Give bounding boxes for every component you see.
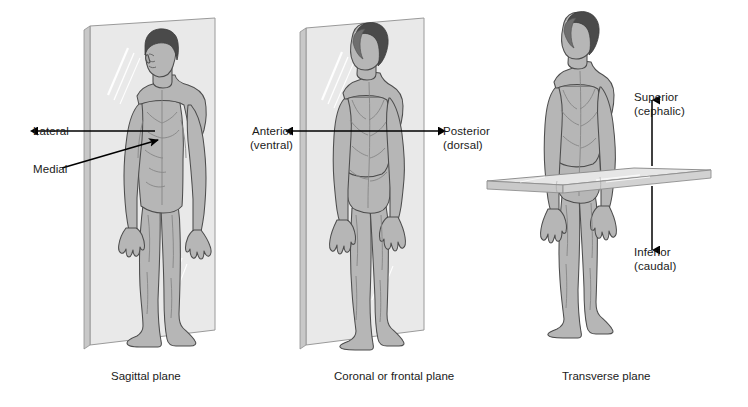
label-superior-line1: Superior	[634, 91, 685, 105]
label-posterior-line2: (dorsal)	[443, 139, 490, 153]
sagittal-panel	[38, 18, 215, 349]
label-anterior-line1: Anterior	[243, 125, 293, 139]
label-anterior: Anterior (ventral)	[243, 125, 293, 152]
label-posterior-line1: Posterior	[443, 125, 490, 139]
label-superior-line2: (cephalic)	[634, 105, 685, 119]
label-lateral-line1: Lateral	[33, 125, 69, 137]
caption-coronal: Coronal or frontal plane	[334, 370, 454, 382]
coronal-panel	[293, 18, 438, 350]
diagram-canvas	[0, 0, 748, 407]
label-medial: Medial	[33, 163, 67, 177]
label-medial-line1: Medial	[33, 163, 67, 175]
anatomical-planes-diagram: Lateral Medial Anterior (ventral) Poster…	[0, 0, 748, 407]
label-posterior: Posterior (dorsal)	[443, 125, 490, 152]
label-inferior: Inferior (caudal)	[634, 246, 676, 273]
label-anterior-line2: (ventral)	[243, 139, 293, 153]
transverse-plane	[487, 168, 711, 193]
label-superior: Superior (cephalic)	[634, 91, 685, 118]
label-lateral: Lateral	[33, 125, 69, 139]
label-inferior-line2: (caudal)	[634, 260, 676, 274]
label-inferior-line1: Inferior	[634, 246, 676, 260]
caption-transverse: Transverse plane	[562, 370, 650, 382]
caption-sagittal: Sagittal plane	[111, 370, 181, 382]
transverse-panel	[487, 12, 711, 338]
